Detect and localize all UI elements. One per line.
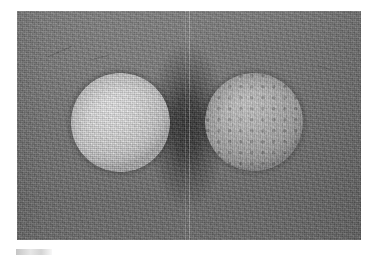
photograph-plate xyxy=(17,11,361,240)
sphere-left-surface-texture xyxy=(71,73,170,172)
screenshot-root xyxy=(0,0,376,260)
caption-mark xyxy=(16,249,52,255)
photo-vertical-banding xyxy=(17,11,361,240)
sphere-left xyxy=(71,73,170,172)
sphere-right xyxy=(205,73,303,171)
sphere-right-grain xyxy=(205,73,303,171)
